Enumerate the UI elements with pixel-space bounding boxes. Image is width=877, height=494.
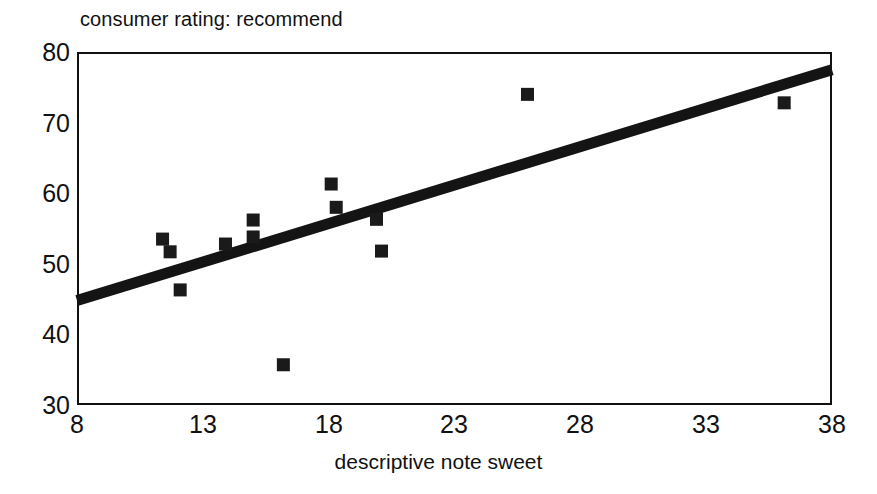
chart-title: consumer rating: recommend <box>80 8 343 31</box>
y-tick-label-30: 30 <box>8 391 70 420</box>
x-tick-label-38: 38 <box>818 410 846 439</box>
x-tick-label-28: 28 <box>566 410 594 439</box>
x-tick-label-23: 23 <box>440 410 468 439</box>
x-tick-label-13: 13 <box>189 410 217 439</box>
y-tick-label-80: 80 <box>8 38 70 67</box>
y-tick-label-40: 40 <box>8 320 70 349</box>
x-tick-label-8: 8 <box>70 410 84 439</box>
x-tick-label-33: 33 <box>692 410 720 439</box>
x-tick-label-18: 18 <box>315 410 343 439</box>
x-axis-title: descriptive note sweet <box>0 450 877 474</box>
plot-area-frame <box>77 52 832 405</box>
y-tick-label-70: 70 <box>8 109 70 138</box>
y-axis-tick-labels: 80 70 60 50 40 30 <box>0 0 70 494</box>
scatter-chart: consumer rating: recommend 80 70 60 50 4… <box>0 0 877 494</box>
y-tick-label-60: 60 <box>8 179 70 208</box>
y-tick-label-50: 50 <box>8 250 70 279</box>
